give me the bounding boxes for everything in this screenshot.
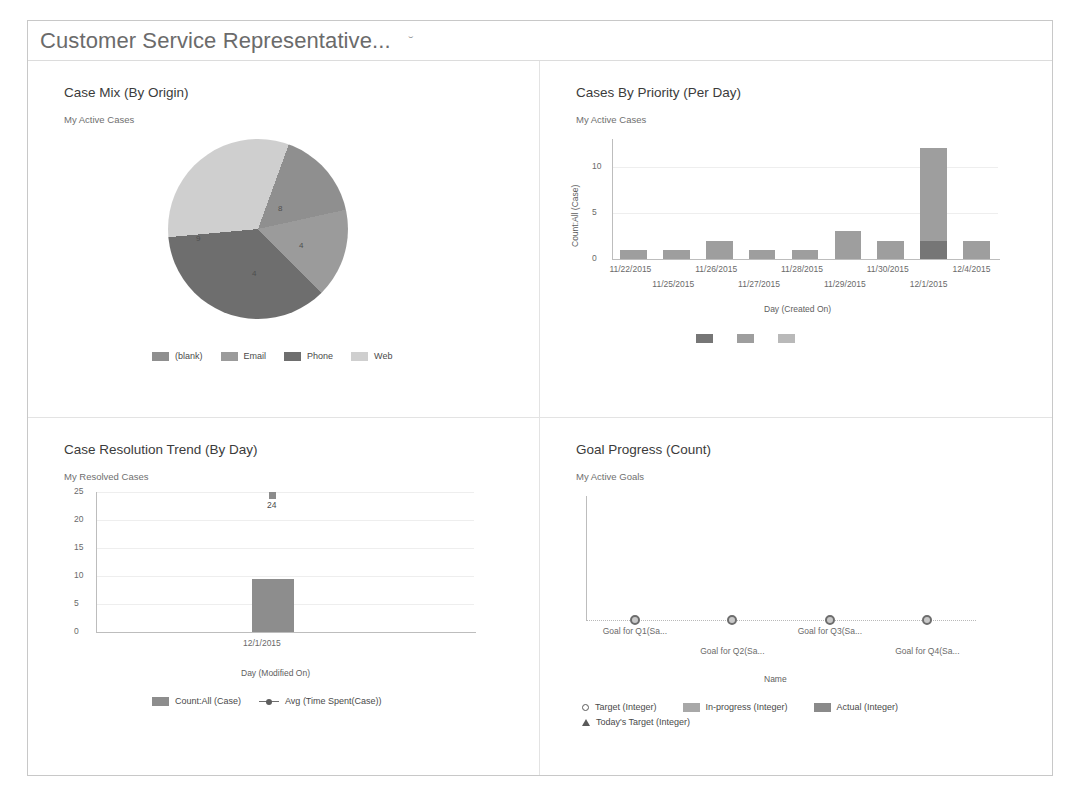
y-tick-label: 10: [592, 161, 601, 171]
x-axis-line: [586, 620, 976, 621]
legend-item[interactable]: [696, 334, 719, 343]
x-axis-title: Day (Modified On): [241, 668, 310, 678]
priority-bar[interactable]: [620, 250, 647, 259]
pie-chart[interactable]: [168, 139, 348, 319]
x-axis-line: [96, 632, 476, 633]
circle-marker-icon: [582, 704, 589, 711]
legend-swatch: [152, 697, 169, 706]
priority-legend: [696, 334, 801, 343]
priority-bar[interactable]: [706, 241, 733, 259]
legend-label: Target (Integer): [595, 702, 657, 712]
priority-bar[interactable]: [920, 148, 947, 240]
legend-item[interactable]: Actual (Integer): [814, 702, 899, 712]
x-axis-title: Day (Created On): [764, 304, 831, 314]
legend-label: Count:All (Case): [175, 696, 241, 706]
pie-slice-label: 4: [252, 269, 256, 278]
y-axis-line: [96, 492, 97, 632]
legend-item[interactable]: Today's Target (Integer): [582, 717, 982, 727]
priority-bar[interactable]: [835, 231, 862, 259]
legend-label: Web: [374, 351, 392, 361]
triangle-marker-icon: [582, 719, 590, 726]
x-tick-label: 11/28/2015: [781, 264, 823, 274]
y-tick-label: 5: [74, 598, 79, 608]
legend-label: Phone: [307, 351, 333, 361]
legend-swatch: [737, 334, 754, 343]
trend-bar[interactable]: [252, 579, 294, 632]
legend-label: Avg (Time Spent(Case)): [285, 696, 382, 706]
goal-target-marker[interactable]: [630, 615, 640, 625]
panel-cases-by-priority: Cases By Priority (Per Day) My Active Ca…: [540, 61, 1052, 418]
y-axis-line: [586, 496, 587, 620]
legend-item[interactable]: [778, 334, 801, 343]
y-tick-label: 10: [74, 570, 83, 580]
x-tick-label: 12/1/2015: [243, 638, 281, 648]
panel-case-mix: Case Mix (By Origin) My Active Cases 8 4…: [28, 61, 540, 418]
legend-item[interactable]: Email: [221, 351, 267, 361]
legend-item[interactable]: Web: [351, 351, 392, 361]
legend-swatch: [351, 352, 368, 361]
legend-swatch: [221, 352, 238, 361]
panel-subtitle-case-mix: My Active Cases: [64, 114, 517, 125]
legend-item[interactable]: Count:All (Case): [152, 696, 241, 706]
gridline: [96, 492, 474, 493]
trend-point-marker[interactable]: [269, 492, 276, 499]
goal-plot-area: Goal for Q1(Sa...Goal for Q2(Sa...Goal f…: [568, 486, 1030, 755]
legend-item[interactable]: [737, 334, 760, 343]
dashboard-header: Customer Service Representative... ˇ: [28, 21, 1052, 61]
priority-bar[interactable]: [920, 241, 947, 259]
legend-label: Today's Target (Integer): [596, 717, 690, 727]
priority-bar[interactable]: [663, 250, 690, 259]
y-axis-line: [612, 139, 613, 259]
goal-target-marker[interactable]: [727, 615, 737, 625]
trend-point-label: 24: [267, 500, 276, 510]
y-tick-label: 0: [592, 253, 597, 263]
pie-legend: (blank) Email Phone Web: [152, 351, 392, 361]
legend-label: (blank): [175, 351, 203, 361]
priority-bar[interactable]: [963, 241, 990, 259]
panel-title-case-mix: Case Mix (By Origin): [64, 85, 517, 100]
goal-target-marker[interactable]: [825, 615, 835, 625]
legend-swatch: [778, 334, 795, 343]
panel-subtitle-goal-progress: My Active Goals: [576, 471, 1030, 482]
page-title: Customer Service Representative...: [40, 28, 391, 54]
legend-swatch: [683, 703, 700, 712]
gridline: [96, 576, 474, 577]
legend-label: Actual (Integer): [837, 702, 899, 712]
pie-slice-label: 9: [196, 234, 200, 243]
x-tick-label: 11/25/2015: [652, 279, 694, 289]
panel-subtitle-cases-by-priority: My Active Cases: [576, 114, 1030, 125]
x-tick-label: 11/29/2015: [824, 279, 866, 289]
legend-label: In-progress (Integer): [706, 702, 788, 712]
x-tick-label: Goal for Q3(Sa...: [798, 626, 862, 636]
priority-bar[interactable]: [792, 250, 819, 259]
x-tick-label: Goal for Q1(Sa...: [603, 626, 667, 636]
panel-case-resolution-trend: Case Resolution Trend (By Day) My Resolv…: [28, 418, 540, 775]
legend-item[interactable]: (blank): [152, 351, 203, 361]
y-tick-label: 5: [592, 207, 597, 217]
pie-plot-area: 8 4 4 9 (blank) Email: [56, 129, 517, 397]
y-tick-label: 0: [74, 626, 79, 636]
pie-slice-label: 4: [299, 241, 303, 250]
dashboard-frame: Customer Service Representative... ˇ Cas…: [27, 20, 1053, 776]
legend-item[interactable]: Phone: [284, 351, 333, 361]
x-tick-label: 11/27/2015: [738, 279, 780, 289]
legend-item[interactable]: Avg (Time Spent(Case)): [259, 696, 382, 706]
gridline: [96, 520, 474, 521]
legend-item[interactable]: Target (Integer): [582, 702, 657, 712]
legend-label: Email: [244, 351, 267, 361]
trend-legend: Count:All (Case) Avg (Time Spent(Case)): [152, 696, 382, 706]
panel-subtitle-case-resolution-trend: My Resolved Cases: [64, 471, 517, 482]
priority-bar[interactable]: [749, 250, 776, 259]
x-tick-label: 11/22/2015: [609, 264, 651, 274]
goal-target-marker[interactable]: [922, 615, 932, 625]
legend-item[interactable]: In-progress (Integer): [683, 702, 788, 712]
y-tick-label: 20: [74, 514, 83, 524]
chevron-down-icon[interactable]: ˇ: [408, 35, 413, 47]
goal-legend: Target (Integer) In-progress (Integer) A…: [582, 702, 982, 727]
priority-bar[interactable]: [877, 241, 904, 259]
x-axis-title: Name: [764, 674, 787, 684]
dashboard-page: Customer Service Representative... ˇ Cas…: [0, 0, 1081, 799]
x-tick-label: 12/4/2015: [953, 264, 991, 274]
legend-line-marker-icon: [259, 701, 279, 702]
panel-title-goal-progress: Goal Progress (Count): [576, 442, 1030, 457]
